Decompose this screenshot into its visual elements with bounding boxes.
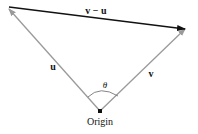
label-origin: Origin [87, 116, 113, 127]
angle-arc [88, 91, 118, 97]
label-u: u [50, 61, 56, 72]
vector-v [100, 29, 185, 111]
label-v: v [149, 68, 154, 79]
label-v-minus-u: v − u [85, 5, 107, 16]
origin-point [98, 109, 102, 113]
label-theta: θ [103, 80, 108, 90]
vector-diagram: v − u u v θ Origin [0, 0, 198, 134]
vector-u [9, 9, 100, 111]
